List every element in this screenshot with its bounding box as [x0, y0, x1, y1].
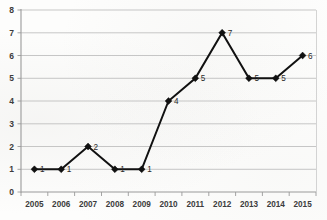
data-point-label: 2	[94, 143, 99, 152]
x-tick-marks	[21, 192, 316, 196]
y-tick-label: 6	[9, 51, 14, 61]
y-tick-label: 1	[9, 164, 14, 174]
x-tick-label: 2009	[133, 200, 152, 209]
y-axis-tick-labels: 8 7 6 5 4 3 2 1 0	[9, 5, 14, 197]
gridlines	[21, 10, 316, 169]
x-tick-label: 2013	[240, 200, 259, 209]
y-tick-label: 2	[9, 142, 14, 152]
x-tick-label: 2011	[186, 200, 204, 209]
y-tick-label: 7	[9, 28, 14, 38]
line-chart: 8 7 6 5 4 3 2 1 0 2005 2006 2007 2008 20…	[0, 0, 327, 220]
data-point-label: 1	[120, 165, 125, 174]
data-point-label: 5	[201, 74, 206, 83]
y-tick-label: 8	[9, 5, 14, 15]
y-tick-label: 0	[9, 187, 14, 197]
y-tick-label: 5	[9, 73, 14, 83]
data-point-label: 1	[147, 165, 152, 174]
x-tick-label: 2007	[79, 200, 98, 209]
x-tick-label: 2005	[25, 200, 44, 209]
data-point-marker	[138, 166, 145, 173]
data-point-label: 1	[40, 165, 45, 174]
data-point-marker	[31, 166, 38, 173]
data-point-label: 4	[174, 97, 179, 106]
x-tick-label: 2008	[106, 200, 125, 209]
data-point-label: 7	[228, 29, 233, 38]
y-tick-label: 3	[9, 119, 14, 129]
chart-canvas: 8 7 6 5 4 3 2 1 0 2005 2006 2007 2008 20…	[0, 0, 327, 220]
x-tick-label: 2010	[159, 200, 178, 209]
data-point-label: 5	[281, 74, 286, 83]
data-point-label: 6	[308, 52, 313, 61]
y-tick-label: 4	[9, 96, 14, 106]
x-tick-label: 2015	[293, 200, 312, 209]
data-point-label: 1	[67, 165, 72, 174]
data-point-label: 5	[254, 74, 259, 83]
x-tick-label: 2012	[213, 200, 232, 209]
x-tick-label: 2006	[52, 200, 71, 209]
x-axis-tick-labels: 2005 2006 2007 2008 2009 2010 2011 2012 …	[25, 200, 312, 209]
x-tick-label: 2014	[267, 200, 286, 209]
